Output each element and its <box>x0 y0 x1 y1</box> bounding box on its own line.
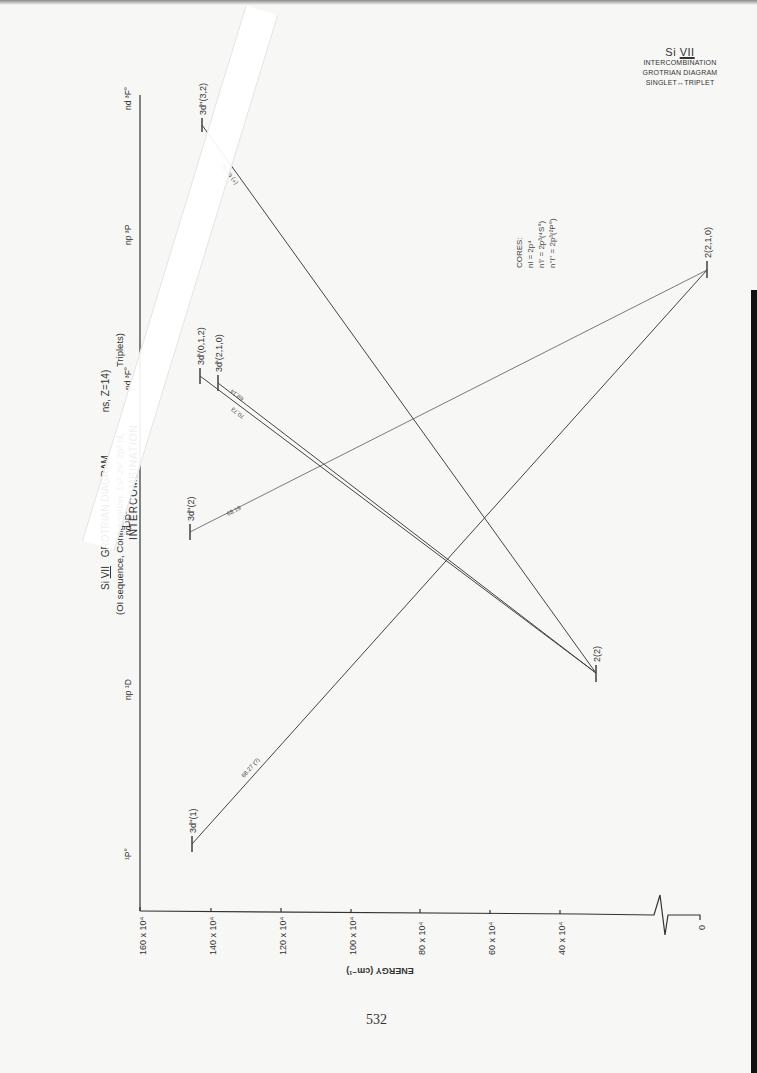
tick-140: 140 x 10⁴ <box>208 916 218 955</box>
energy-levels <box>190 118 707 852</box>
cores-item-3: n''l'' = 2p³(²P°) <box>548 218 557 268</box>
transition-label-3d1: 68.27 (?) <box>240 757 261 779</box>
tick-0: 0 <box>697 925 707 930</box>
tick-40: 40 x 10⁴ <box>557 921 567 955</box>
level-label-g2: 2(2) <box>592 646 602 662</box>
main-title-line2-tail: Triplets) <box>114 333 125 367</box>
tick-120: 120 x 10⁴ <box>278 916 288 955</box>
cores-heading: CORES: <box>515 237 524 268</box>
level-label-3d210: 3d'(2,1,0) <box>214 334 224 372</box>
transition-3d1-g210 <box>192 270 707 844</box>
level-label-g210: 2(2,1,0) <box>703 227 713 258</box>
column-label-1P: ¹P° <box>123 848 133 860</box>
column-label-np1D: np ¹D <box>123 679 133 700</box>
level-label-3d012: 3d'(0,1,2) <box>196 327 206 365</box>
axis-title: ENERGY (cm⁻¹) <box>346 966 413 976</box>
tick-100: 100 x 10⁴ <box>348 916 358 955</box>
cores-item-2: n'l' = 2p³(⁴S°) <box>537 220 546 268</box>
transition-label-3d2: 68.19 <box>226 504 243 516</box>
transition-labels: 68.27 (?) 68.19 70.73 69.14 (+) 69.01 <box>219 162 260 778</box>
transition-label-3d210: 69.14 <box>228 388 244 402</box>
column-label-np3P: np ³P <box>123 224 133 245</box>
cores-block: CORES: nl = 2p⁴ n'l' = 2p³(⁴S°) n''l'' =… <box>515 218 557 268</box>
tick-80: 80 x 10⁴ <box>417 921 427 955</box>
level-label-3d32: 3d''(3,2) <box>198 83 208 115</box>
column-label-nd3F: nd ³F° <box>123 87 133 110</box>
tick-60: 60 x 10⁴ <box>487 921 497 955</box>
transition-3d210-g2 <box>218 383 596 673</box>
level-label-3d1: 3d''(1) <box>188 809 198 833</box>
transitions <box>190 125 707 844</box>
page-number: 532 <box>366 1012 387 1028</box>
level-label-3d2: 3d''(2) <box>186 497 196 521</box>
transition-3d32-g2 <box>202 125 596 673</box>
tick-160: 160 x 10⁴ <box>138 916 148 955</box>
level-labels: 3d''(1) 3d''(2) 3d'(0,1,2) 3d'(2,1,0) 3d… <box>186 83 713 833</box>
transition-3d012-g2 <box>200 376 596 673</box>
transition-3d2-g210 <box>190 270 707 532</box>
cores-item-1: nl = 2p⁴ <box>526 240 535 268</box>
axis-tick-labels: 160 x 10⁴ 140 x 10⁴ 120 x 10⁴ 100 x 10⁴ … <box>138 916 707 955</box>
